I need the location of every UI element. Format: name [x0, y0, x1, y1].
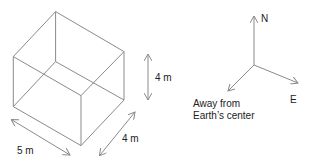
- width-dimension: 4 m: [100, 112, 139, 155]
- away-label-line1: Away from: [193, 98, 240, 109]
- box-wireframe: [13, 12, 124, 146]
- length-dimension: 5 m: [12, 120, 70, 156]
- away-from-earth-arrow: [228, 65, 254, 91]
- away-label-line2: Earth’s center: [193, 110, 255, 121]
- box-edge-bottom-left: [13, 107, 81, 146]
- box-edge-back-bottom-right: [56, 62, 124, 100]
- diagram-canvas: 4 m 5 m 4 m N E Away from Earth’s center: [0, 0, 309, 165]
- box-top-face: [13, 12, 124, 96]
- length-label: 5 m: [17, 145, 34, 156]
- north-label: N: [261, 13, 268, 24]
- height-label: 4 m: [155, 72, 172, 83]
- east-label: E: [290, 94, 297, 105]
- height-dimension: 4 m: [148, 55, 172, 100]
- width-label: 4 m: [122, 133, 139, 144]
- box-edge-bottom-right: [81, 100, 124, 146]
- east-arrow: [254, 65, 298, 83]
- compass: N E Away from Earth’s center: [193, 13, 298, 121]
